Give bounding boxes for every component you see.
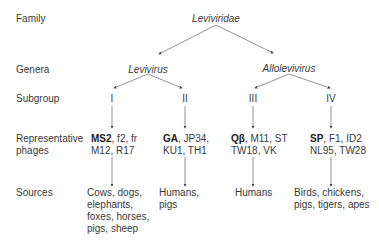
genus-node-levivirus: Levivirus (128, 64, 167, 76)
sources-subgroup-iv: Birds, chickens, pigs, tigers, apes (294, 187, 370, 211)
subgroup-node-iv: IV (326, 93, 335, 105)
phages-subgroup-ii: GA, JP34, KU1, TH1 (163, 133, 209, 157)
phages-subgroup-iii: Qβ, M11, ST TW18, VK (231, 133, 288, 157)
row-label-subgroup: Subgroup (16, 93, 59, 105)
sources-subgroup-ii: Humans, pigs (159, 187, 199, 211)
subgroup-node-i: I (111, 93, 114, 105)
row-label-representative-phages: Representative phages (16, 133, 83, 157)
row-label-family: Family (16, 13, 45, 25)
row-label-sources: Sources (16, 187, 53, 199)
subgroup-node-iii: III (249, 93, 257, 105)
row-label-genera: Genera (16, 64, 49, 76)
phages-subgroup-i: MS2, f2, fr M12, R17 (91, 133, 137, 157)
sources-subgroup-i: Cows, dogs, elephants, foxes, horses, pi… (87, 187, 149, 235)
phages-subgroup-iv: SP, F1, ID2 NL95, TW28 (310, 133, 366, 157)
genus-node-allolevivirus: Allolevivirus (263, 63, 316, 75)
family-node: Leviviridae (192, 13, 240, 25)
sources-subgroup-iii: Humans (235, 187, 272, 199)
subgroup-node-ii: II (182, 93, 188, 105)
